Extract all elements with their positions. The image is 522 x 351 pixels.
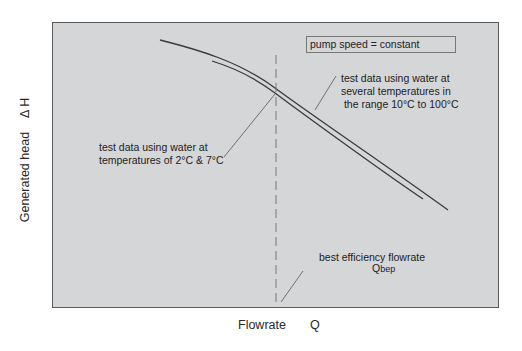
hot-water-line-1: test data using water at [341,72,459,85]
pump-speed-box: pump speed = constant [306,36,456,53]
bep-symbol: Qbep [372,262,395,274]
cold-water-label: test data using water at temperatures of… [99,141,224,167]
cold-water-line-1: test data using water at [99,141,224,154]
y-axis-label: Generated headΔ H [18,98,32,223]
hot-water-label: test data using water at several tempera… [341,72,459,111]
leader-bep [281,271,303,302]
x-axis-label: FlowrateQ [238,318,320,332]
leader-cold [224,94,275,157]
hot-water-line-2: several temperatures in [341,85,459,98]
hot-water-line-3: the range 10°C to 100°C [341,98,459,111]
cold-water-line-2: temperatures of 2°C & 7°C [99,154,224,167]
leader-hot [315,76,336,110]
curve-hot-water [160,40,448,210]
